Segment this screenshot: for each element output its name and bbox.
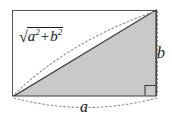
hypotenuse-exponent-b: 2 — [58, 27, 63, 37]
hypotenuse-term-b: b — [50, 28, 58, 44]
vertical-leg-label: b — [157, 45, 165, 61]
horizontal-leg-label: a — [80, 99, 88, 115]
radical-sign-icon: √ — [19, 28, 28, 45]
pythagorean-triangle-figure: √a2+b2 b a — [0, 0, 172, 121]
triangle-shape — [14, 10, 156, 96]
hypotenuse-label: √a2+b2 — [19, 28, 63, 44]
hypotenuse-operator: + — [40, 28, 50, 44]
